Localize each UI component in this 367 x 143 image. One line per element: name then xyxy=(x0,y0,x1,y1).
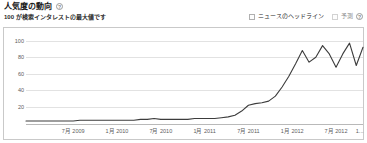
checkbox-icon[interactable] xyxy=(249,14,255,20)
checkbox-forecast[interactable]: 予測 ? xyxy=(332,13,363,20)
y-axis-tick-label: 20 xyxy=(18,104,24,110)
x-axis-tick-label: 1月 2010 xyxy=(106,128,129,135)
widget-header: 人気度の動向 ? 100 が検索インタレストの最大値です ニュースのヘッドライン… xyxy=(0,0,367,27)
subtitle-text: 100 が検索インタレストの最大値です xyxy=(4,13,106,21)
checkbox-news-headlines-label: ニュースのヘッドライン xyxy=(258,13,324,20)
chart-svg xyxy=(4,28,365,141)
chart-x-axis-labels: 7月 20091月 20107月 20101月 20117月 20111月 20… xyxy=(4,128,363,138)
chart-line-series xyxy=(26,43,363,121)
page-title: 人気度の動向 xyxy=(4,2,52,11)
y-axis-tick-label: 60 xyxy=(18,71,24,77)
chart-plot-area: 20406080100 7月 20091月 20107月 20101月 2011… xyxy=(4,28,363,139)
chart-series-layer xyxy=(26,43,363,121)
x-axis-tick-label: 7月 2009 xyxy=(62,128,85,135)
question-mark-icon[interactable]: ? xyxy=(56,3,63,10)
chart-y-axis-labels: 20406080100 xyxy=(4,28,26,139)
checkbox-forecast-label: 予測 xyxy=(341,13,353,20)
x-axis-tick-label: 7月 2012 xyxy=(325,128,348,135)
legend-controls: ニュースのヘッドライン 予測 ? xyxy=(249,13,363,20)
checkbox-icon[interactable] xyxy=(332,14,338,20)
x-axis-tick-label: 7月 2011 xyxy=(237,128,259,135)
question-mark-icon[interactable]: ? xyxy=(356,13,363,20)
checkbox-news-headlines[interactable]: ニュースのヘッドライン xyxy=(249,13,324,20)
chart-gridlines xyxy=(26,42,363,108)
title-row: 人気度の動向 ? xyxy=(4,2,63,11)
x-axis-tick-label: 7月 2010 xyxy=(149,128,172,135)
y-axis-tick-label: 80 xyxy=(18,54,24,60)
chart-frame: 20406080100 7月 20091月 20107月 20101月 2011… xyxy=(3,27,364,140)
trends-widget: 人気度の動向 ? 100 が検索インタレストの最大値です ニュースのヘッドライン… xyxy=(0,0,367,143)
y-axis-tick-label: 100 xyxy=(15,38,24,44)
x-axis-tick-label: 1... xyxy=(356,128,364,135)
x-axis-tick-label: 1月 2012 xyxy=(281,128,304,135)
x-axis-tick-label: 1月 2011 xyxy=(193,128,215,135)
y-axis-tick-label: 40 xyxy=(18,87,24,93)
